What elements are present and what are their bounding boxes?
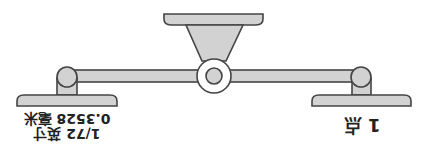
left-pan-label-mm: 0.3528 毫米 [17,111,117,126]
right-pan-label: 1 点 [312,116,412,134]
right-pivot-knob [351,67,371,87]
scale-base-tray [164,14,263,25]
left-pan-label-inches: 1/72 英寸 [17,126,117,141]
central-pivot-inner [206,68,222,84]
left-pan [17,95,117,106]
left-pan-label: 1/72 英寸 0.3528 毫米 [17,111,117,141]
right-pan [312,95,411,106]
left-pivot-knob [57,67,77,87]
scale-column [186,25,243,61]
